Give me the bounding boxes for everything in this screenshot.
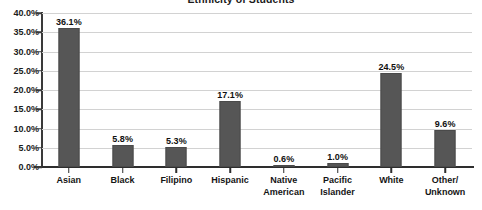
bar[interactable]	[435, 130, 456, 167]
x-axis-category-label-line: Native	[253, 175, 315, 187]
x-axis-category-label: NativeAmerican	[253, 175, 315, 198]
x-axis-category-label: Asian	[38, 175, 100, 187]
y-axis-tick-label: 30.0%	[0, 47, 39, 57]
x-axis-category-label-line: Pacific	[307, 175, 369, 187]
x-axis-tick	[337, 168, 339, 173]
x-axis-category-label: White	[360, 175, 422, 187]
bar-value-label: 0.6%	[274, 154, 295, 164]
x-axis-category-label: Hispanic	[199, 175, 261, 187]
x-axis-category-label: Filipino	[145, 175, 207, 187]
y-axis-tick	[36, 128, 42, 130]
y-axis-tick-label: 35.0%	[0, 27, 39, 37]
bar-value-label: 5.3%	[166, 136, 187, 146]
bar[interactable]	[58, 28, 79, 167]
x-axis-tick	[68, 168, 70, 173]
x-axis-category-label: Black	[92, 175, 154, 187]
bar-value-label: 17.1%	[217, 90, 243, 100]
y-axis-labels: 40.0%35.0%30.0%25.0%20.0%15.0%10.0%5.0%0…	[0, 0, 39, 210]
bar[interactable]	[381, 73, 402, 167]
bar-slot: 5.3%	[150, 13, 204, 167]
y-axis-tick	[36, 166, 42, 168]
y-axis-tick-label: 20.0%	[0, 85, 39, 95]
x-axis-tick	[122, 168, 124, 173]
y-axis-tick	[36, 51, 42, 53]
x-axis-category-label-line: Other/	[414, 175, 476, 187]
x-axis-category-label-line: Unknown	[414, 187, 476, 199]
x-axis-category-label: Other/Unknown	[414, 175, 476, 198]
y-axis-tick-label: 5.0%	[0, 143, 39, 153]
bar-value-label: 1.0%	[327, 152, 348, 162]
y-axis-tick	[36, 70, 42, 72]
y-axis-tick-label: 15.0%	[0, 104, 39, 114]
x-axis-category-label-line: Hispanic	[199, 175, 261, 187]
x-axis-tick	[283, 168, 285, 173]
bar[interactable]	[327, 163, 348, 167]
plot-area: 36.1%5.8%5.3%17.1%0.6%1.0%24.5%9.6%	[42, 13, 472, 167]
x-axis-tick	[391, 168, 393, 173]
bar[interactable]	[112, 145, 133, 167]
bar-value-label: 36.1%	[56, 17, 82, 27]
x-axis-category-label-line: Black	[92, 175, 154, 187]
bar-slot: 36.1%	[42, 13, 96, 167]
y-axis-tick	[36, 147, 42, 149]
x-axis-tick	[444, 168, 446, 173]
y-axis-tick	[36, 12, 42, 14]
bar-slot: 5.8%	[96, 13, 150, 167]
y-axis-tick	[36, 109, 42, 111]
bar-value-label: 9.6%	[435, 119, 456, 129]
x-axis-category-label-line: Asian	[38, 175, 100, 187]
x-axis-tick	[229, 168, 231, 173]
bar[interactable]	[166, 147, 187, 167]
bar-value-label: 24.5%	[379, 62, 405, 72]
bar-chart: Ethnicity of Students 40.0%35.0%30.0%25.…	[0, 0, 482, 210]
bar[interactable]	[220, 101, 241, 167]
x-axis-category-label-line: Islander	[307, 187, 369, 199]
y-axis-tick	[36, 89, 42, 91]
y-axis-tick-label: 40.0%	[0, 8, 39, 18]
x-axis-category-label: PacificIslander	[307, 175, 369, 198]
x-axis-category-label-line: Filipino	[145, 175, 207, 187]
bar-slot: 17.1%	[203, 13, 257, 167]
x-axis-tick	[176, 168, 178, 173]
y-axis-tick-label: 25.0%	[0, 66, 39, 76]
y-axis-tick	[36, 32, 42, 34]
bar[interactable]	[273, 165, 294, 167]
x-axis-category-label-line: American	[253, 187, 315, 199]
bar-slot: 24.5%	[365, 13, 419, 167]
bar-slot: 0.6%	[257, 13, 311, 167]
y-axis-tick-label: 10.0%	[0, 124, 39, 134]
bar-slot: 9.6%	[418, 13, 472, 167]
bar-slot: 1.0%	[311, 13, 365, 167]
x-axis-category-label-line: White	[360, 175, 422, 187]
chart-title: Ethnicity of Students	[0, 0, 482, 5]
bar-value-label: 5.8%	[112, 134, 133, 144]
